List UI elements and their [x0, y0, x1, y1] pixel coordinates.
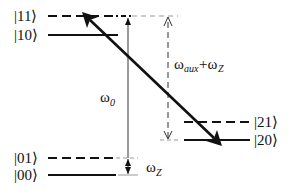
transition-arrow	[82, 12, 222, 146]
label-20: |20⟩	[254, 132, 278, 148]
omegaAuxZ-arrow	[164, 17, 172, 139]
label-10: |10⟩	[14, 27, 38, 43]
label-00: |00⟩	[14, 167, 38, 183]
svg-text:ω: ω	[174, 56, 184, 72]
omegaZ-label: ω Z	[146, 159, 162, 178]
svg-text:0: 0	[110, 97, 115, 108]
svg-text:+ω: +ω	[199, 56, 217, 72]
energy-level-diagram: |11⟩ |10⟩ |01⟩ |00⟩ |21⟩ |20⟩ ω 0 ω Z ω …	[0, 0, 294, 194]
label-21: |21⟩	[254, 114, 278, 130]
svg-text:Z: Z	[218, 63, 224, 74]
label-11: |11⟩	[14, 8, 37, 24]
svg-text:aux: aux	[184, 63, 199, 74]
omegaAuxZ-label: ω aux +ω Z	[174, 56, 224, 74]
svg-text:Z: Z	[156, 167, 162, 178]
omega0-label: ω 0	[100, 89, 115, 108]
svg-text:ω: ω	[100, 89, 110, 105]
svg-text:ω: ω	[146, 159, 156, 175]
label-01: |01⟩	[14, 150, 38, 166]
